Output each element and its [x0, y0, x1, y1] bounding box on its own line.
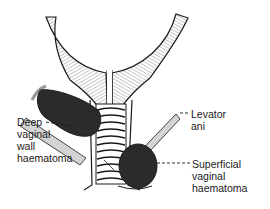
- label-superficial-haematoma: Superficial vaginal haematoma: [192, 158, 247, 194]
- label-superficial-line3: haematoma: [192, 182, 247, 194]
- label-levator-line1: Levator: [191, 108, 226, 120]
- label-deep-line4: haematoma: [17, 152, 72, 164]
- label-deep-line2: vaginal: [17, 128, 72, 140]
- label-levator-ani: Levator ani: [191, 108, 226, 132]
- label-superficial-line1: Superficial: [192, 158, 247, 170]
- label-deep-line3: wall: [17, 140, 72, 152]
- label-deep-line1: Deep: [17, 116, 72, 128]
- label-deep-haematoma: Deep vaginal wall haematoma: [17, 116, 72, 164]
- label-superficial-line2: vaginal: [192, 170, 247, 182]
- label-levator-line2: ani: [191, 120, 226, 132]
